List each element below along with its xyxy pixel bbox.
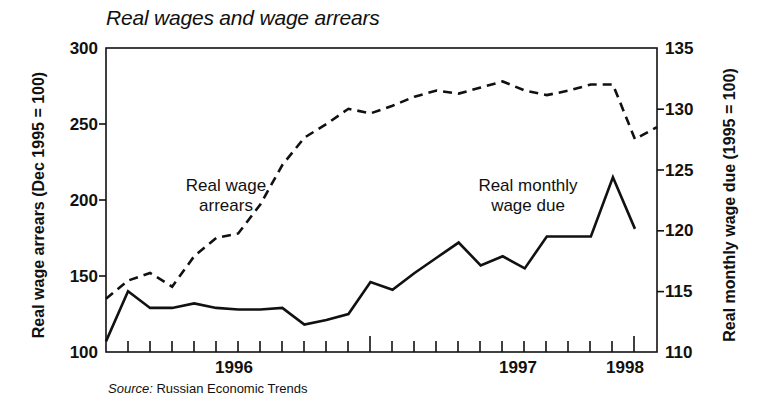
source-text: Russian Economic Trends (153, 381, 308, 396)
source-label: Source: (108, 381, 153, 396)
plot-area (0, 0, 767, 411)
y-axis-ticks-left (99, 124, 106, 276)
series-line-real-wage-arrears (106, 81, 657, 298)
y-axis-ticks-right (657, 109, 664, 291)
source-note: Source: Russian Economic Trends (108, 381, 307, 396)
x-axis-ticks (128, 336, 634, 352)
chart-figure: Real wages and wage arrears Real wage ar… (0, 0, 767, 411)
series-line-real-monthly-wage-due (106, 177, 635, 341)
plot-frame (106, 48, 657, 352)
